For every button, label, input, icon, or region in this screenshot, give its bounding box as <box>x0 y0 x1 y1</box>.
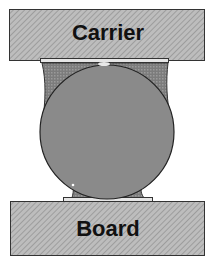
solder-ball <box>40 65 174 199</box>
carrier-label: Carrier <box>0 20 216 46</box>
ball-top-highlight <box>98 62 110 66</box>
ball-specular-dot <box>72 184 75 187</box>
board-label: Board <box>0 216 216 242</box>
carrier-pad <box>41 59 169 63</box>
